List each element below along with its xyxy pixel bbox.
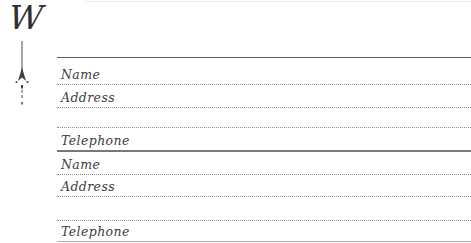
name-label: Name bbox=[61, 157, 100, 172]
address-continuation-row bbox=[57, 107, 471, 128]
address-book-page: W Name Address Telephone Name Address bbox=[0, 0, 471, 243]
entry-form-area: Name Address Telephone Name Address Tele… bbox=[57, 0, 471, 243]
telephone-label: Telephone bbox=[61, 133, 130, 148]
arrow-divider-ornament-icon bbox=[12, 40, 32, 106]
address-row: Address bbox=[57, 174, 471, 197]
address-label: Address bbox=[61, 90, 115, 105]
address-continuation-row bbox=[57, 196, 471, 221]
address-row: Address bbox=[57, 84, 471, 108]
letter-tab: W bbox=[8, 1, 44, 34]
telephone-row: Telephone bbox=[57, 220, 471, 242]
telephone-label: Telephone bbox=[61, 224, 130, 239]
name-row: Name bbox=[57, 58, 471, 85]
telephone-row: Telephone bbox=[57, 127, 471, 152]
name-label: Name bbox=[61, 67, 100, 82]
address-label: Address bbox=[61, 179, 115, 194]
name-row: Name bbox=[57, 152, 471, 175]
